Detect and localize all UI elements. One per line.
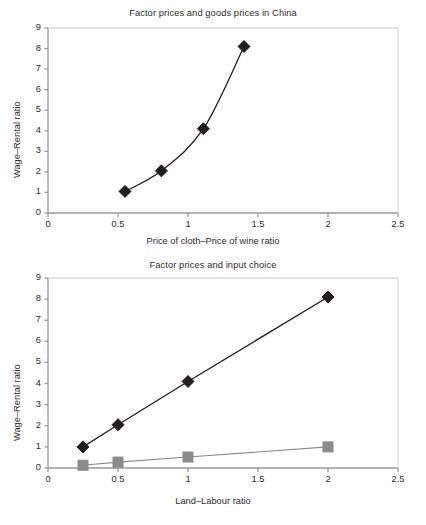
x-tick-label: 0 xyxy=(33,219,63,229)
x-tick-label: 0.5 xyxy=(103,219,133,229)
figure-factor-prices-goods-prices: Factor prices and goods prices in China … xyxy=(0,0,426,255)
y-tick-label: 9 xyxy=(23,22,41,32)
x-tick-label: 2 xyxy=(313,219,343,229)
y-tick-label: 4 xyxy=(23,378,41,388)
y-tick-label: 5 xyxy=(23,104,41,114)
y-tick-label: 0 xyxy=(23,462,41,472)
figure-factor-prices-input-choice: Factor prices and input choice Wage–Rent… xyxy=(0,255,426,525)
y-tick-label: 1 xyxy=(23,441,41,451)
y-tick-label: 3 xyxy=(23,145,41,155)
y-tick-label: 5 xyxy=(23,356,41,366)
y-tick-label: 3 xyxy=(23,399,41,409)
x-tick-label: 1.5 xyxy=(243,474,273,484)
x-tick-label: 1 xyxy=(173,474,203,484)
y-tick-label: 7 xyxy=(23,314,41,324)
y-tick-label: 6 xyxy=(23,84,41,94)
y-tick-label: 2 xyxy=(23,420,41,430)
x-tick-label: 1 xyxy=(173,219,203,229)
y-tick-label: 9 xyxy=(23,272,41,282)
chart-page: Factor prices and goods prices in China … xyxy=(0,0,426,525)
x-tick-label: 1.5 xyxy=(243,219,273,229)
plot-area-top xyxy=(0,0,426,255)
y-tick-label: 4 xyxy=(23,125,41,135)
y-tick-label: 6 xyxy=(23,335,41,345)
x-tick-label: 2.5 xyxy=(383,219,413,229)
y-tick-label: 8 xyxy=(23,43,41,53)
y-tick-label: 7 xyxy=(23,63,41,73)
x-tick-label: 0 xyxy=(33,474,63,484)
x-tick-label: 2.5 xyxy=(383,474,413,484)
plot-area-bottom xyxy=(0,255,426,525)
x-tick-label: 0.5 xyxy=(103,474,133,484)
y-tick-label: 2 xyxy=(23,166,41,176)
y-tick-label: 1 xyxy=(23,186,41,196)
y-tick-label: 0 xyxy=(23,207,41,217)
y-tick-label: 8 xyxy=(23,293,41,303)
x-tick-label: 2 xyxy=(313,474,343,484)
